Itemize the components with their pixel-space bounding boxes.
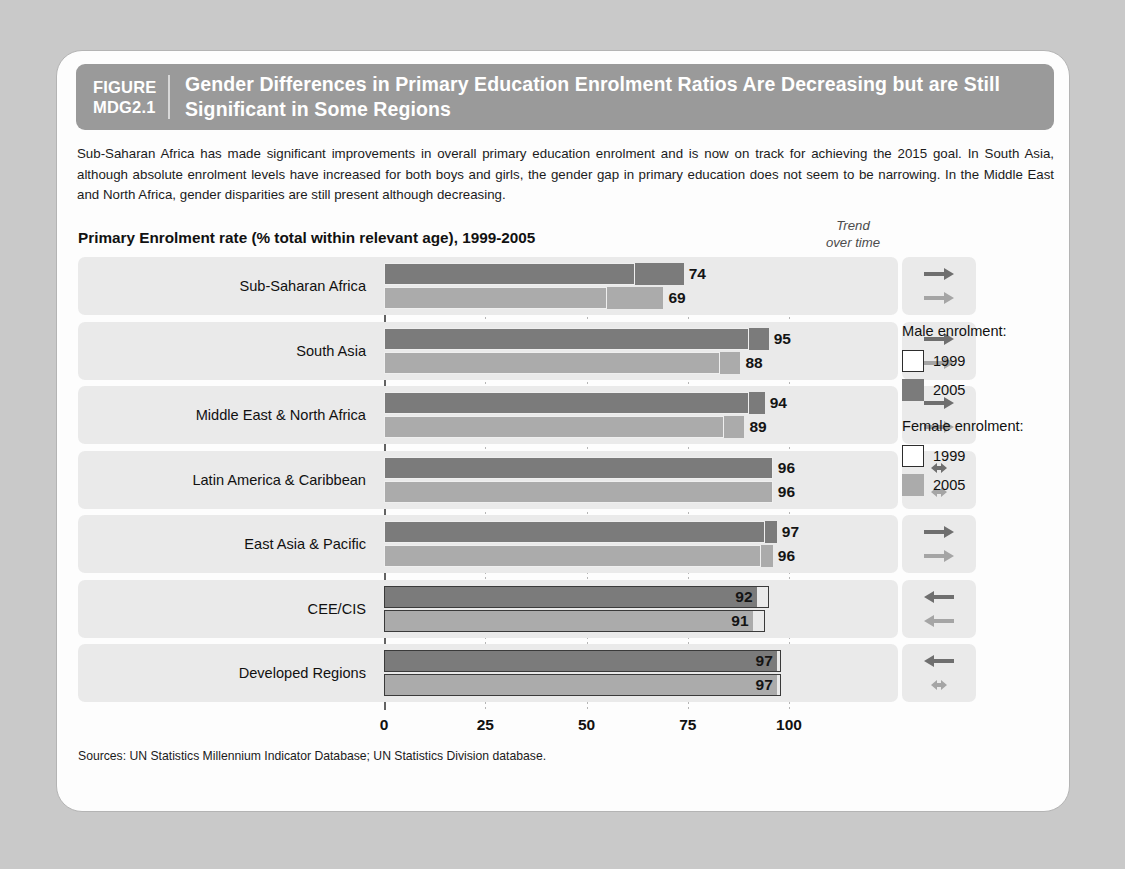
trend-row <box>902 515 976 573</box>
row-bars: 9797 <box>384 644 898 702</box>
bar-value-label: 95 <box>774 328 791 350</box>
bar-value-label: 69 <box>668 287 685 309</box>
bar-female-1999-outline <box>384 610 765 632</box>
figure-number-line2: MDG2.1 <box>93 97 168 117</box>
row-label: Latin America & Caribbean <box>78 451 375 509</box>
bar-female-1999-outline <box>384 287 607 309</box>
trend-arrow-right-icon <box>902 263 976 285</box>
bar-male-1999-outline <box>384 457 773 479</box>
bar-female-1999-outline <box>384 674 781 696</box>
chart-row: Middle East & North Africa9489 <box>78 386 898 444</box>
trend-heading-line2: over time <box>801 235 905 252</box>
x-tick-label: 0 <box>380 716 389 734</box>
legend-female-title: Female enrolment: <box>902 418 1062 434</box>
bar-group-female: 91 <box>384 610 898 632</box>
figure-title: Gender Differences in Primary Education … <box>185 72 1054 122</box>
chart-row: Developed Regions9797 <box>78 644 898 702</box>
x-tick-label: 50 <box>578 716 595 734</box>
chart-row: South Asia9588 <box>78 322 898 380</box>
trend-heading-line1: Trend <box>801 218 905 235</box>
x-tick-label: 25 <box>477 716 494 734</box>
bar-group-female: 89 <box>384 416 898 438</box>
legend-label-male-1999: 1999 <box>933 353 965 369</box>
figure-number-line1: FIGURE <box>93 77 168 97</box>
bar-value-label: 96 <box>778 457 795 479</box>
bar-male-1999-outline <box>384 328 749 350</box>
bar-value-label: 88 <box>745 352 762 374</box>
bar-female-1999-outline <box>384 352 720 374</box>
bar-value-label: 96 <box>778 545 795 567</box>
bar-male-1999-outline <box>384 586 769 608</box>
trend-row <box>902 257 976 315</box>
bar-group-female: 97 <box>384 674 898 696</box>
row-label: South Asia <box>78 322 375 380</box>
bar-male-1999-outline <box>384 650 781 672</box>
row-label: East Asia & Pacific <box>78 515 375 573</box>
bar-group-male: 95 <box>384 328 898 350</box>
trend-row <box>902 580 976 638</box>
legend-item-male-2005: 2005 <box>902 375 1062 404</box>
x-tick-label: 100 <box>776 716 802 734</box>
legend-swatch-male-1999 <box>902 350 924 372</box>
row-bars: 9696 <box>384 451 898 509</box>
trend-arrow-right-icon <box>902 545 976 567</box>
figure-header: FIGURE MDG2.1 Gender Differences in Prim… <box>76 64 1054 130</box>
source-note: Sources: UN Statistics Millennium Indica… <box>78 749 546 763</box>
row-bars: 9796 <box>384 515 898 573</box>
figure-number: FIGURE MDG2.1 <box>76 77 168 117</box>
bar-male-1999-outline <box>384 392 749 414</box>
bar-value-label: 91 <box>723 610 749 632</box>
bar-group-female: 96 <box>384 545 898 567</box>
chart-row: Sub-Saharan Africa7469 <box>78 257 898 315</box>
chart-heading: Primary Enrolment rate (% total within r… <box>78 229 535 247</box>
bar-value-label: 96 <box>778 481 795 503</box>
chart-plot-area: Sub-Saharan Africa7469South Asia9588Midd… <box>78 257 898 710</box>
bar-value-label: 97 <box>782 521 799 543</box>
chart-row: East Asia & Pacific9796 <box>78 515 898 573</box>
row-label: Developed Regions <box>78 644 375 702</box>
row-bars: 7469 <box>384 257 898 315</box>
bar-group-male: 97 <box>384 521 898 543</box>
trend-column-heading: Trend over time <box>801 218 905 251</box>
legend-male-title: Male enrolment: <box>902 323 1062 339</box>
legend-label-female-1999: 1999 <box>933 448 965 464</box>
chart-row: Latin America & Caribbean9696 <box>78 451 898 509</box>
legend-swatch-female-2005 <box>902 474 924 496</box>
legend-label-male-2005: 2005 <box>933 382 965 398</box>
bar-group-female: 88 <box>384 352 898 374</box>
bar-female-1999-outline <box>384 416 724 438</box>
legend-item-male-1999: 1999 <box>902 346 1062 375</box>
bar-group-male: 97 <box>384 650 898 672</box>
bar-male-1999-outline <box>384 263 635 285</box>
legend-item-female-1999: 1999 <box>902 441 1062 470</box>
figure-card: FIGURE MDG2.1 Gender Differences in Prim… <box>56 50 1070 812</box>
bar-group-female: 96 <box>384 481 898 503</box>
bar-value-label: 92 <box>727 586 753 608</box>
row-label: Middle East & North Africa <box>78 386 375 444</box>
figure-description: Sub-Saharan Africa has made significant … <box>77 144 1054 206</box>
chart-rows: Sub-Saharan Africa7469South Asia9588Midd… <box>78 257 898 702</box>
row-bars: 9291 <box>384 580 898 638</box>
row-bars: 9489 <box>384 386 898 444</box>
legend-item-female-2005: 2005 <box>902 470 1062 499</box>
bar-value-label: 94 <box>770 392 787 414</box>
bar-value-label: 74 <box>689 263 706 285</box>
trend-arrow-right-icon <box>902 521 976 543</box>
bar-male-1999-outline <box>384 521 765 543</box>
bar-value-label: 97 <box>747 674 773 696</box>
row-label: CEE/CIS <box>78 580 375 638</box>
chart-row: CEE/CIS9291 <box>78 580 898 638</box>
header-divider <box>168 75 170 119</box>
legend-swatch-female-1999 <box>902 445 924 467</box>
x-axis: 0255075100 <box>384 716 884 742</box>
row-bars: 9588 <box>384 322 898 380</box>
bar-value-label: 97 <box>747 650 773 672</box>
trend-arrow-left-icon <box>902 586 976 608</box>
legend-label-female-2005: 2005 <box>933 477 965 493</box>
bar-group-male: 92 <box>384 586 898 608</box>
bar-female-1999-outline <box>384 481 773 503</box>
bar-female-1999-outline <box>384 545 761 567</box>
legend-swatch-male-2005 <box>902 379 924 401</box>
bar-group-male: 74 <box>384 263 898 285</box>
bar-group-male: 94 <box>384 392 898 414</box>
